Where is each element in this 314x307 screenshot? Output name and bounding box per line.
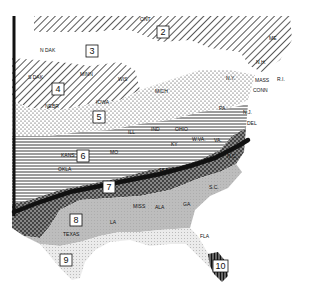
state-label: MINN [80,71,93,77]
zone-7-label: 7 [103,181,115,193]
svg-text:8: 8 [73,215,78,225]
svg-text:2: 2 [160,27,165,37]
zone-regions [12,16,292,282]
svg-text:3: 3 [89,46,94,56]
state-label: MISS [133,203,146,209]
state-label: N.H. [256,59,266,65]
state-label: TENN [159,167,173,173]
svg-text:9: 9 [63,255,68,265]
state-label: MASS [255,77,270,83]
zone-10-label: 10 [213,260,228,272]
zone-9-label: 9 [60,254,72,266]
state-label: DEL [247,120,257,126]
zone-6-label: 6 [77,150,89,162]
state-label: ONT [140,16,151,22]
state-label: ME [269,35,277,41]
state-label: WIS [118,76,128,82]
zone-3-label: 3 [86,45,98,57]
svg-text:6: 6 [80,151,85,161]
state-label: OKLA [58,166,72,172]
state-label: TEXAS [63,231,80,237]
hardiness-zone-map: 2 3 4 5 6 7 8 9 10 ONTN DAKS DAKMINNWISN… [0,0,314,307]
state-label: OHIO [175,126,188,132]
state-label: MO [110,149,118,155]
zone-4-label: 4 [52,83,64,95]
svg-text:7: 7 [106,182,111,192]
zone-5-label: 5 [93,111,105,123]
state-label: N.J. [243,109,252,115]
svg-text:10: 10 [215,261,225,271]
state-label: N DAK [40,47,56,53]
state-label: KY [171,141,178,147]
svg-text:5: 5 [96,112,101,122]
zone-2-label: 2 [157,26,169,38]
state-label: W.VA. [192,136,206,142]
svg-text:4: 4 [55,84,60,94]
state-label: LA [110,219,117,225]
state-label: VA. [214,137,222,143]
state-label: N.Y. [226,75,235,81]
state-label: ALA [155,204,165,210]
state-label: FLA [200,233,210,239]
state-label: KANS [61,152,75,158]
state-label: IOWA [96,99,110,105]
state-label: CONN [253,87,268,93]
state-label: N.C. [227,153,237,159]
state-label: GA [183,201,191,207]
state-label: S DAK [28,74,44,80]
state-label: MICH [155,88,168,94]
state-label: NEBR [45,103,59,109]
state-label: S.C. [209,184,219,190]
zone-8-label: 8 [70,214,82,226]
state-label: PA [219,105,226,111]
state-label: ILL [128,129,135,135]
state-label: R.I. [277,76,285,82]
state-label: IND [151,126,160,132]
